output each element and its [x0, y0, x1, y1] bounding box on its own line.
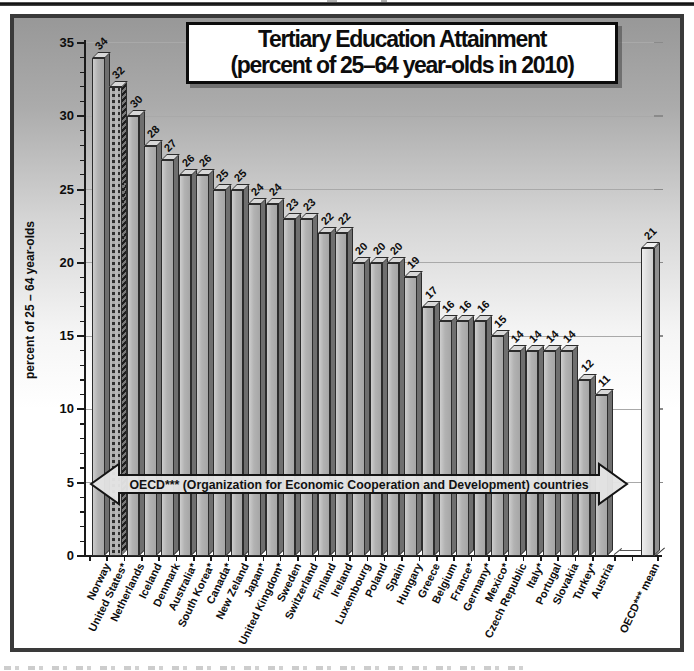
y-axis-minor-tick — [80, 321, 84, 322]
y-tick-label: 0 — [44, 548, 74, 564]
bar — [404, 277, 417, 556]
x-axis-tick — [505, 557, 507, 561]
bar-side-face — [654, 242, 660, 556]
x-axis-tick — [297, 557, 299, 561]
y-axis-minor-tick — [80, 72, 84, 73]
bar — [370, 263, 383, 556]
x-axis-tick — [401, 557, 403, 561]
x-axis-tick — [592, 557, 594, 561]
y-axis-minor-tick — [80, 379, 84, 380]
bar — [508, 351, 521, 556]
y-tick-label: 5 — [44, 475, 74, 491]
chart-title-box: Tertiary Education Attainment (percent o… — [186, 22, 618, 84]
x-axis-tick — [280, 557, 282, 561]
page-top-rule — [0, 2, 694, 6]
y-axis-line — [84, 40, 86, 557]
x-axis-tick — [210, 557, 212, 561]
y-axis-minor-tick — [80, 130, 84, 131]
cutoff-header-fragment — [381, 0, 387, 2]
bar — [352, 263, 365, 556]
y-axis-minor-tick — [80, 174, 84, 175]
y-axis-major-tick — [77, 189, 84, 191]
y-axis-minor-tick — [80, 233, 84, 234]
y-axis-minor-tick — [80, 204, 84, 205]
y-axis-major-tick — [77, 115, 84, 117]
y-axis-minor-tick — [80, 57, 84, 58]
page: percent of 25 – 64 year-olds 05101520253… — [0, 0, 694, 671]
y-tick-label: 30 — [44, 108, 74, 124]
x-axis-tick — [349, 557, 351, 561]
y-axis-minor-tick — [80, 526, 84, 527]
right-axis-tick — [654, 189, 663, 191]
y-axis-minor-tick — [80, 438, 84, 439]
y-axis-minor-tick — [80, 350, 84, 351]
chart-title-line-2: (percent of 25–64 year-olds in 2010) — [189, 52, 615, 78]
bar — [526, 351, 539, 556]
y-axis-minor-tick — [80, 86, 84, 87]
y-axis-minor-tick — [80, 541, 84, 542]
cutoff-caption-fragment — [4, 666, 532, 670]
y-axis-title: percent of 25 – 64 year-olds — [23, 221, 37, 379]
cutoff-header-fragment — [327, 0, 337, 2]
y-tick-label: 15 — [44, 328, 74, 344]
bar — [543, 351, 556, 556]
y-axis-minor-tick — [80, 365, 84, 366]
y-axis-major-tick — [77, 335, 84, 337]
x-axis-tick — [176, 557, 178, 561]
chart-title-line-1: Tertiary Education Attainment — [189, 26, 615, 52]
bar — [422, 307, 435, 556]
x-axis-tick — [436, 557, 438, 561]
x-axis-tick — [332, 557, 334, 561]
y-axis-major-tick — [77, 42, 84, 44]
bar — [560, 351, 573, 556]
y-axis-major-tick — [77, 482, 84, 484]
y-axis-minor-tick — [80, 453, 84, 454]
bar — [335, 233, 348, 556]
x-axis-tick — [89, 557, 91, 561]
x-axis-tick — [557, 557, 559, 561]
x-axis-tick — [453, 557, 455, 561]
x-axis-tick — [471, 557, 473, 561]
x-axis-tick — [488, 557, 490, 561]
x-axis-tick — [315, 557, 317, 561]
y-axis-minor-tick — [80, 394, 84, 395]
y-tick-label: 35 — [44, 35, 74, 51]
y-axis-minor-tick — [80, 497, 84, 498]
x-axis-tick — [193, 557, 195, 561]
y-axis-major-tick — [77, 408, 84, 410]
x-axis-tick — [141, 557, 143, 561]
y-axis-minor-tick — [80, 248, 84, 249]
x-axis-tick — [419, 557, 421, 561]
y-axis-minor-tick — [80, 160, 84, 161]
x-axis-tick — [540, 557, 542, 561]
y-axis-major-tick — [77, 555, 84, 557]
x-axis-tick — [523, 557, 525, 561]
y-axis-minor-tick — [80, 423, 84, 424]
oecd-arrow-label: OECD*** (Organization for Economic Coope… — [129, 478, 588, 492]
oecd-countries-arrow: OECD*** (Organization for Economic Coope… — [88, 461, 630, 507]
y-tick-label: 20 — [44, 255, 74, 271]
x-axis-tick — [384, 557, 386, 561]
bar — [456, 321, 469, 556]
y-axis-minor-tick — [80, 101, 84, 102]
x-axis-tick — [263, 557, 265, 561]
y-axis-minor-tick — [80, 277, 84, 278]
y-axis-minor-tick — [80, 306, 84, 307]
x-axis-tick — [614, 557, 616, 561]
y-axis-minor-tick — [80, 218, 84, 219]
x-axis-tick — [575, 557, 577, 561]
bar — [318, 233, 331, 556]
x-axis-tick — [245, 557, 247, 561]
bar — [641, 248, 654, 556]
bar — [387, 263, 400, 556]
y-axis-minor-tick — [80, 145, 84, 146]
bar — [491, 336, 504, 556]
x-axis-tick — [228, 557, 230, 561]
y-tick-label: 10 — [44, 401, 74, 417]
x-axis-tick — [124, 557, 126, 561]
y-axis-minor-tick — [80, 467, 84, 468]
right-axis-tick — [654, 115, 663, 117]
x-axis-tick — [106, 557, 108, 561]
x-axis-tick — [158, 557, 160, 561]
y-tick-label: 25 — [44, 182, 74, 198]
